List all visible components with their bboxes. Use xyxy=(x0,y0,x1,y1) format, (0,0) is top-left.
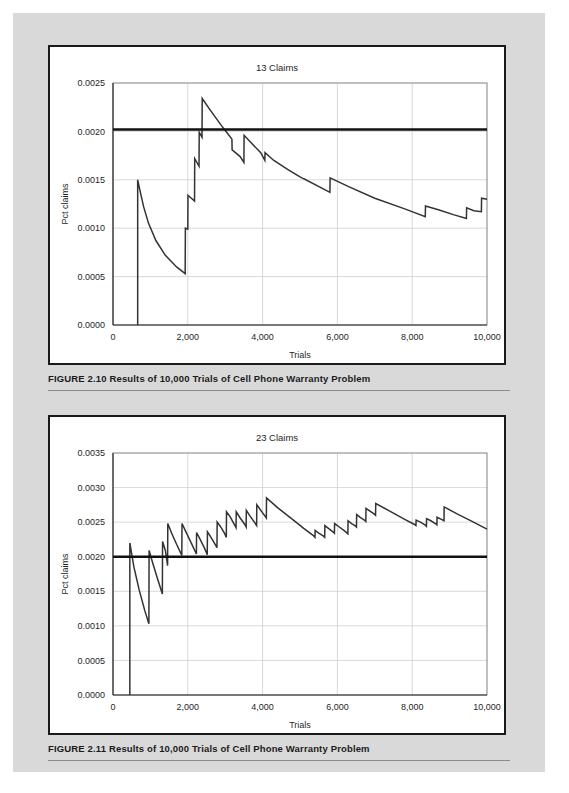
gridlines xyxy=(113,453,487,695)
y-tick-label: 0.0025 xyxy=(77,78,105,88)
caption-row-2-11: FIGURE 2.11 Results of 10,000 Trials of … xyxy=(48,743,510,761)
chart-23-claims: 23 Claims 0.00000.00050.00100.00150.0020… xyxy=(50,417,504,733)
y-tick-label: 0.0005 xyxy=(77,272,105,282)
x-tick-label: 8,000 xyxy=(401,702,424,712)
y-tick-label: 0.0015 xyxy=(77,175,105,185)
y-axis-title: Pct claims xyxy=(60,553,70,595)
x-axis-title: Trials xyxy=(289,350,311,360)
chart-frame-23-claims: 23 Claims 0.00000.00050.00100.00150.0020… xyxy=(48,415,506,735)
x-tick-label: 6,000 xyxy=(326,702,349,712)
y-tick-label: 0.0015 xyxy=(77,586,105,596)
x-tick-label: 10,000 xyxy=(473,702,501,712)
caption-row-2-10: FIGURE 2.10 Results of 10,000 Trials of … xyxy=(48,373,510,391)
series-running-pct-claims xyxy=(130,498,487,695)
y-tick-labels: 0.00000.00050.00100.00150.00200.0025 xyxy=(77,78,105,330)
x-tick-label: 0 xyxy=(110,332,115,342)
x-tick-label: 4,000 xyxy=(251,332,274,342)
figure-caption: FIGURE 2.10 Results of 10,000 Trials of … xyxy=(48,373,510,385)
x-tick-label: 2,000 xyxy=(177,332,200,342)
y-tick-label: 0.0035 xyxy=(77,448,105,458)
x-tick-label: 6,000 xyxy=(326,332,349,342)
y-tick-labels: 0.00000.00050.00100.00150.00200.00250.00… xyxy=(77,448,105,700)
x-tick-label: 4,000 xyxy=(251,702,274,712)
x-tick-label: 2,000 xyxy=(177,702,200,712)
caption-divider xyxy=(48,760,510,761)
book-page: 13 Claims 0.00000.00050.00100.00150.0020… xyxy=(13,13,545,772)
gridlines xyxy=(113,83,487,325)
y-tick-label: 0.0010 xyxy=(77,621,105,631)
series-running-pct-claims xyxy=(138,98,487,325)
y-tick-label: 0.0030 xyxy=(77,483,105,493)
x-tick-labels: 02,0004,0006,0008,00010,000 xyxy=(110,332,500,342)
x-axis-title: Trials xyxy=(289,720,311,730)
chart-title: 23 Claims xyxy=(256,432,298,443)
y-tick-label: 0.0020 xyxy=(77,552,105,562)
x-tick-label: 0 xyxy=(110,702,115,712)
x-tick-label: 10,000 xyxy=(473,332,501,342)
chart-frame-13-claims: 13 Claims 0.00000.00050.00100.00150.0020… xyxy=(48,45,506,365)
chart-title: 13 Claims xyxy=(256,62,298,73)
caption-divider xyxy=(48,390,510,391)
figure-block-2-10: 13 Claims 0.00000.00050.00100.00150.0020… xyxy=(48,45,510,391)
y-tick-label: 0.0000 xyxy=(77,690,105,700)
x-tick-label: 8,000 xyxy=(401,332,424,342)
y-tick-label: 0.0000 xyxy=(77,320,105,330)
y-tick-label: 0.0025 xyxy=(77,517,105,527)
plot-area-frame xyxy=(113,453,487,695)
y-tick-label: 0.0010 xyxy=(77,223,105,233)
y-tick-label: 0.0020 xyxy=(77,127,105,137)
plot-area-frame xyxy=(113,83,487,325)
figure-block-2-11: 23 Claims 0.00000.00050.00100.00150.0020… xyxy=(48,415,510,761)
figure-caption: FIGURE 2.11 Results of 10,000 Trials of … xyxy=(48,743,510,755)
axis-lines xyxy=(113,83,487,325)
chart-13-claims: 13 Claims 0.00000.00050.00100.00150.0020… xyxy=(50,47,504,363)
x-tick-labels: 02,0004,0006,0008,00010,000 xyxy=(110,702,500,712)
y-tick-label: 0.0005 xyxy=(77,656,105,666)
axis-lines xyxy=(113,453,487,695)
y-axis-title: Pct claims xyxy=(60,183,70,225)
